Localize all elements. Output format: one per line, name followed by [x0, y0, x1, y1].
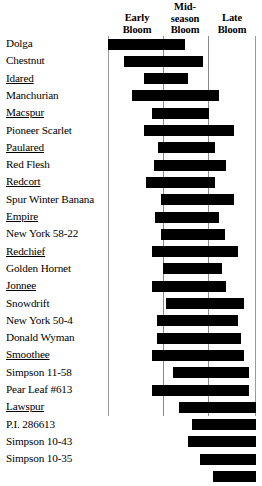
row-label-idared: Idared	[6, 72, 34, 85]
bloom-period-bar	[152, 350, 244, 361]
chart-row: Empire	[0, 209, 262, 226]
chart-row: Pear Leaf #613	[0, 382, 262, 399]
row-label-donald-wyman: Donald Wyman	[6, 331, 74, 344]
row-label-golden-hornet: Golden Hornet	[6, 262, 71, 275]
column-header-mid-season-bloom-line-2: season	[160, 13, 210, 25]
row-label-simpson-11-58: Simpson 11-58	[6, 366, 72, 379]
bloom-period-bar	[146, 177, 214, 188]
row-label-paulared: Paulared	[6, 141, 44, 154]
row-label-simpson-10-35: Simpson 10-35	[6, 452, 72, 465]
column-header-early-bloom-line-2: Bloom	[112, 24, 162, 36]
bloom-period-bar	[157, 333, 241, 344]
bloom-period-bar	[132, 90, 219, 101]
chart-row: Jonnee	[0, 278, 262, 295]
row-label-pear-leaf-613: Pear Leaf #613	[6, 383, 72, 396]
bloom-period-bar	[161, 229, 225, 240]
bloom-period-bar	[152, 385, 248, 396]
chart-row: Simpson 10-35	[0, 451, 262, 468]
bloom-period-bar	[108, 39, 185, 50]
row-label-jonnee: Jonnee	[6, 279, 36, 292]
row-label-manchurian: Manchurian	[6, 89, 59, 102]
chart-column-headers: Early Bloom Mid- season Bloom Late Bloom	[0, 0, 262, 36]
chart-row: Red Flesh	[0, 157, 262, 174]
chart-row: Pioneer Scarlet	[0, 123, 262, 140]
row-label-pioneer-scarlet: Pioneer Scarlet	[6, 124, 72, 137]
row-label-empire: Empire	[6, 210, 38, 223]
column-header-mid-season-bloom-line-1: Mid-	[160, 1, 210, 13]
chart-row: Golden Hornet	[0, 261, 262, 278]
row-label-macspur: Macspur	[6, 106, 44, 119]
column-header-late-bloom-line-2: Bloom	[207, 24, 257, 36]
chart-row: Paulared	[0, 140, 262, 157]
chart-row: Simpson 10-43	[0, 434, 262, 451]
row-label-chestnut: Chestnut	[6, 54, 45, 67]
column-header-mid-season-bloom-line-3: Bloom	[160, 24, 210, 36]
chart-row: Spur Winter Banana	[0, 192, 262, 209]
chart-row: Simpson 11-58	[0, 365, 262, 382]
chart-row: P.I. 286613	[0, 417, 262, 434]
bloom-period-bar	[152, 108, 208, 119]
row-label-lawspur: Lawspur	[6, 400, 44, 413]
chart-row: Redchief	[0, 244, 262, 261]
row-label-new-york-58-22: New York 58-22	[6, 227, 78, 240]
chart-row: Macspur	[0, 105, 262, 122]
chart-row	[0, 469, 262, 486]
bloom-period-bar	[213, 471, 256, 482]
chart-row: Idared	[0, 71, 262, 88]
bloom-period-bar	[154, 160, 227, 171]
column-header-early-bloom-line-1: Early	[112, 12, 162, 24]
chart-row: New York 50-4	[0, 313, 262, 330]
bloom-period-bar	[155, 212, 219, 223]
chart-row: Snowdrift	[0, 296, 262, 313]
chart-row: Dolga	[0, 36, 262, 53]
column-header-early-bloom: Early Bloom	[112, 12, 162, 35]
row-label-redcort: Redcort	[6, 175, 40, 188]
bloom-period-bar	[144, 73, 188, 84]
chart-row: Redcort	[0, 174, 262, 191]
row-label-spur-winter-banana: Spur Winter Banana	[6, 193, 94, 206]
row-label-smoothee: Smoothee	[6, 348, 50, 361]
row-label-p-i-286613: P.I. 286613	[6, 418, 55, 431]
row-label-snowdrift: Snowdrift	[6, 297, 49, 310]
row-label-red-flesh: Red Flesh	[6, 158, 50, 171]
column-header-late-bloom-line-1: Late	[207, 12, 257, 24]
bloom-period-bar	[166, 298, 244, 309]
bloom-period-bar	[157, 315, 238, 326]
bloom-period-bar	[152, 281, 226, 292]
bloom-period-bar	[188, 436, 256, 447]
row-label-simpson-10-43: Simpson 10-43	[6, 435, 72, 448]
bloom-period-bar	[161, 194, 234, 205]
chart-row: Chestnut	[0, 53, 262, 70]
bloom-period-bar	[173, 367, 248, 378]
chart-row: Smoothee	[0, 347, 262, 364]
column-header-mid-season-bloom: Mid- season Bloom	[160, 1, 210, 36]
row-label-new-york-50-4: New York 50-4	[6, 314, 73, 327]
bloom-period-bar	[158, 142, 214, 153]
chart-row: New York 58-22	[0, 226, 262, 243]
bloom-period-bar	[192, 419, 256, 430]
row-label-redchief: Redchief	[6, 245, 45, 258]
column-header-late-bloom: Late Bloom	[207, 12, 257, 35]
bloom-period-bar	[152, 246, 238, 257]
bloom-period-bar	[179, 402, 256, 413]
bloom-period-bar	[200, 454, 256, 465]
chart-row: Manchurian	[0, 88, 262, 105]
bloom-period-bar	[144, 125, 234, 136]
row-label-dolga: Dolga	[6, 37, 33, 50]
chart-row: Donald Wyman	[0, 330, 262, 347]
bloom-period-bar	[124, 56, 202, 67]
chart-row: Lawspur	[0, 399, 262, 416]
bloom-period-bar	[163, 263, 222, 274]
